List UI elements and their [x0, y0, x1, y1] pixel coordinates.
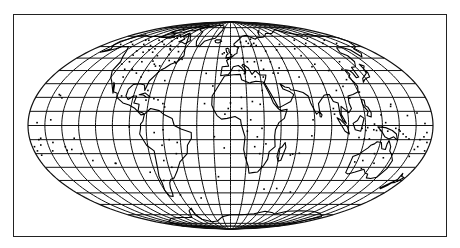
island-dot — [298, 76, 300, 78]
island-dot — [380, 130, 382, 132]
island-dot — [238, 70, 240, 72]
island-dot — [301, 70, 303, 72]
island-dot — [38, 139, 40, 141]
coastline-sri-lanka — [319, 112, 322, 117]
island-dot — [163, 160, 165, 162]
island-dot — [155, 65, 157, 67]
island-dot — [171, 167, 173, 169]
island-dot — [277, 72, 279, 74]
island-dot — [339, 61, 341, 63]
island-dot — [322, 43, 324, 45]
island-dot — [336, 43, 338, 45]
island-dot — [178, 51, 180, 53]
island-dot — [290, 154, 292, 156]
island-dot — [204, 103, 206, 105]
island-dot — [424, 150, 426, 152]
island-dot — [141, 61, 143, 63]
island-dot — [382, 126, 384, 128]
island-dot — [159, 65, 161, 67]
island-dot — [122, 76, 124, 78]
island-dot — [424, 123, 426, 125]
island-dot — [241, 97, 243, 99]
island-dot — [416, 112, 418, 114]
island-dot — [73, 137, 75, 139]
island-dot — [181, 59, 183, 61]
island-dot — [336, 90, 338, 92]
island-dot — [129, 61, 131, 63]
island-dot — [361, 168, 363, 170]
island-dot — [130, 41, 132, 43]
island-dot — [241, 108, 243, 110]
island-dot — [390, 104, 392, 106]
island-dot — [148, 49, 150, 51]
island-dot — [250, 38, 252, 40]
island-dot — [162, 41, 164, 43]
island-dot — [154, 48, 156, 50]
island-dot — [399, 130, 401, 132]
island-dot — [120, 44, 122, 46]
island-dot — [272, 72, 274, 74]
island-dot — [171, 40, 173, 42]
island-dot — [170, 45, 172, 47]
island-dot — [152, 60, 154, 62]
island-dot — [80, 153, 82, 155]
island-dot — [402, 133, 404, 135]
island-dot — [200, 197, 202, 199]
island-dot — [157, 55, 159, 57]
island-dot — [259, 104, 261, 106]
island-dot — [334, 113, 336, 115]
island-dot — [136, 50, 138, 52]
island-dot — [222, 53, 224, 55]
island-dot — [145, 99, 147, 101]
island-dot — [279, 44, 281, 46]
island-dot — [323, 39, 325, 41]
island-dot — [307, 37, 309, 39]
island-dot — [247, 130, 249, 132]
coastline-australia — [346, 141, 393, 179]
island-dot — [224, 113, 226, 115]
island-dot — [168, 139, 170, 141]
island-dot — [247, 61, 249, 63]
island-dot — [414, 149, 416, 151]
island-dot — [322, 83, 324, 85]
island-dot — [92, 160, 94, 162]
coastline-japan — [359, 64, 369, 82]
island-dot — [255, 45, 257, 47]
island-dot — [276, 49, 278, 51]
island-dot — [341, 68, 343, 70]
island-dot — [374, 153, 376, 155]
island-dot — [212, 85, 214, 87]
island-dot — [270, 61, 272, 63]
island-dot — [387, 130, 389, 132]
island-dot — [349, 97, 351, 99]
island-dot — [148, 39, 150, 41]
island-dot — [361, 128, 363, 130]
island-dot — [223, 147, 225, 149]
island-dot — [292, 153, 294, 155]
island-dot — [364, 138, 366, 140]
island-dot — [251, 44, 253, 46]
island-dot — [380, 114, 382, 116]
island-dot — [115, 163, 117, 165]
island-dot — [169, 48, 171, 50]
island-dot — [243, 46, 245, 48]
island-dot — [223, 52, 225, 54]
island-dot — [423, 136, 425, 138]
island-dot — [65, 146, 67, 148]
island-dot — [41, 154, 43, 156]
island-dot — [164, 106, 166, 108]
island-dot — [66, 150, 68, 152]
island-dot — [214, 136, 216, 138]
island-dot — [250, 45, 252, 47]
island-dot — [173, 36, 175, 38]
island-dot — [398, 129, 400, 131]
island-dot — [263, 188, 265, 190]
island-dot — [158, 39, 160, 41]
island-dot — [405, 136, 407, 138]
island-dot — [294, 48, 296, 50]
island-dot — [250, 119, 252, 121]
island-dot — [36, 122, 38, 124]
island-dot — [252, 101, 254, 103]
island-dot — [354, 161, 356, 163]
island-dot — [143, 44, 145, 46]
